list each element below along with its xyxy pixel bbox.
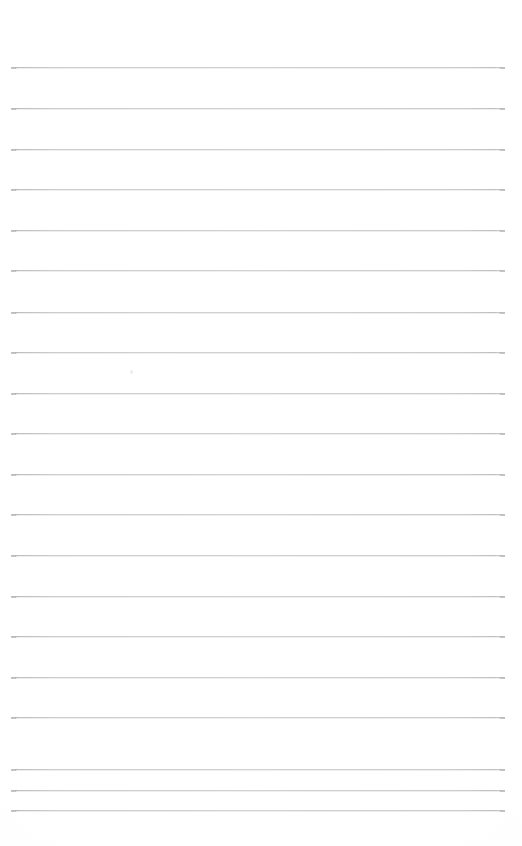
rule-line-left-tip bbox=[11, 270, 17, 272]
rule-line-left-tip bbox=[11, 189, 17, 191]
rule-line-right-tip bbox=[499, 474, 505, 476]
rule-line-right-tip bbox=[499, 352, 505, 354]
rule-line bbox=[11, 67, 505, 68]
rule-line bbox=[11, 149, 505, 150]
rule-line bbox=[11, 555, 505, 556]
rule-line-left-tip bbox=[11, 393, 17, 395]
rule-line bbox=[11, 677, 505, 678]
rule-line-right-tip bbox=[499, 810, 505, 812]
rule-line-right-tip bbox=[499, 596, 505, 598]
rule-line bbox=[11, 596, 505, 597]
rule-line-right-tip bbox=[499, 433, 505, 435]
rule-line-left-tip bbox=[11, 677, 17, 679]
rule-line bbox=[11, 312, 505, 313]
rule-line-left-tip bbox=[11, 636, 17, 638]
rule-line-right-tip bbox=[499, 555, 505, 557]
rule-line-left-tip bbox=[11, 67, 17, 69]
rule-line-right-tip bbox=[499, 769, 505, 771]
rule-line-right-tip bbox=[499, 108, 505, 110]
rule-line bbox=[11, 393, 505, 394]
rule-line-left-tip bbox=[11, 149, 17, 151]
rule-line-right-tip bbox=[499, 790, 505, 792]
rule-line-left-tip bbox=[11, 717, 17, 719]
rule-line bbox=[11, 717, 505, 718]
rule-line bbox=[11, 514, 505, 515]
rule-line bbox=[11, 230, 505, 231]
rule-line-right-tip bbox=[499, 270, 505, 272]
rule-line-left-tip bbox=[11, 433, 17, 435]
rule-line-left-tip bbox=[11, 555, 17, 557]
rule-line bbox=[11, 270, 505, 271]
rule-line-left-tip bbox=[11, 790, 17, 792]
rule-line-right-tip bbox=[499, 636, 505, 638]
rule-line-left-tip bbox=[11, 312, 17, 314]
rule-line-left-tip bbox=[11, 352, 17, 354]
rule-line bbox=[11, 636, 505, 637]
rule-line-left-tip bbox=[11, 769, 17, 771]
rule-line-right-tip bbox=[499, 514, 505, 516]
rule-line bbox=[11, 189, 505, 190]
rule-line-left-tip bbox=[11, 474, 17, 476]
rule-line bbox=[11, 108, 505, 109]
ruled-lines-layer bbox=[0, 0, 522, 846]
rule-line-right-tip bbox=[499, 230, 505, 232]
rule-line bbox=[11, 352, 505, 353]
rule-line-left-tip bbox=[11, 810, 17, 812]
rule-line-right-tip bbox=[499, 717, 505, 719]
rule-line-left-tip bbox=[11, 514, 17, 516]
rule-line-left-tip bbox=[11, 596, 17, 598]
rule-line bbox=[11, 433, 505, 434]
rule-line-right-tip bbox=[499, 67, 505, 69]
rule-line bbox=[11, 790, 505, 791]
rule-line-right-tip bbox=[499, 149, 505, 151]
rule-line-left-tip bbox=[11, 230, 17, 232]
rule-line bbox=[11, 769, 505, 770]
rule-line-right-tip bbox=[499, 189, 505, 191]
rule-line bbox=[11, 474, 505, 475]
ruled-paper-page bbox=[0, 0, 522, 846]
rule-line bbox=[11, 810, 505, 811]
rule-line-right-tip bbox=[499, 393, 505, 395]
rule-line-right-tip bbox=[499, 312, 505, 314]
rule-line-left-tip bbox=[11, 108, 17, 110]
rule-line-right-tip bbox=[499, 677, 505, 679]
